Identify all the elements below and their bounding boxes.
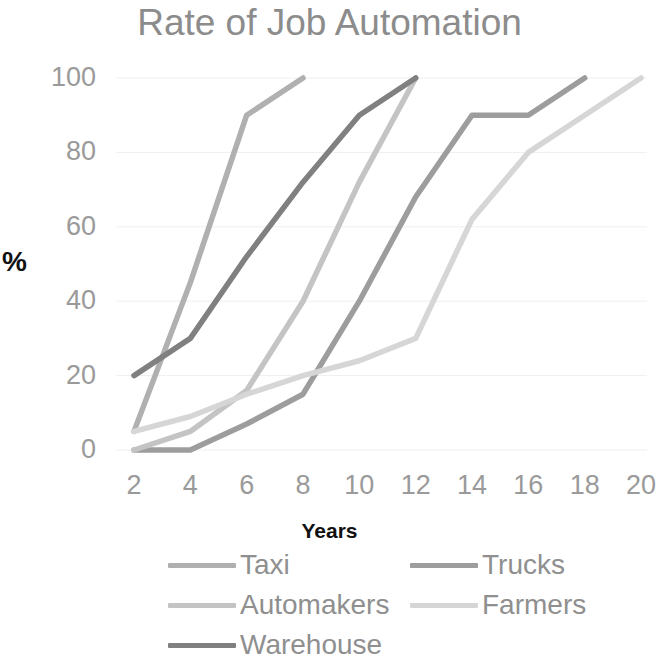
x-tick-label: 8 <box>275 472 331 499</box>
legend-item-trucks[interactable]: Trucks <box>410 548 565 582</box>
legend-item-warehouse[interactable]: Warehouse <box>168 628 382 656</box>
chart-legend: TaxiTrucksAutomakersFarmersWarehouse <box>0 548 659 656</box>
x-tick-label: 16 <box>500 472 556 499</box>
x-axis-title: Years <box>0 519 659 543</box>
x-tick-label: 18 <box>557 472 613 499</box>
series-line-trucks <box>134 78 585 450</box>
legend-label: Farmers <box>482 591 586 619</box>
chart-title: Rate of Job Automation <box>0 2 659 44</box>
x-axis: 2468101214161820 <box>0 472 659 512</box>
x-tick-label: 2 <box>106 472 162 499</box>
legend-swatch-icon <box>168 603 236 608</box>
plot-area <box>0 60 659 470</box>
x-tick-label: 10 <box>331 472 387 499</box>
series-line-taxi <box>134 78 303 431</box>
legend-swatch-icon <box>168 643 236 648</box>
legend-label: Automakers <box>240 591 389 619</box>
plot-svg <box>0 60 659 470</box>
legend-label: Taxi <box>240 551 290 579</box>
legend-label: Trucks <box>482 551 565 579</box>
x-tick-label: 20 <box>613 472 659 499</box>
legend-swatch-icon <box>168 563 236 568</box>
legend-item-farmers[interactable]: Farmers <box>410 588 586 622</box>
legend-swatch-icon <box>410 603 478 608</box>
legend-item-automakers[interactable]: Automakers <box>168 588 389 622</box>
x-tick-label: 6 <box>219 472 275 499</box>
legend-label: Warehouse <box>240 631 382 656</box>
legend-item-taxi[interactable]: Taxi <box>168 548 290 582</box>
x-tick-label: 4 <box>162 472 218 499</box>
x-tick-label: 14 <box>444 472 500 499</box>
x-tick-label: 12 <box>388 472 444 499</box>
chart-root: Rate of Job Automation 020406080100 % 24… <box>0 0 659 656</box>
series-line-automakers <box>134 78 416 450</box>
legend-swatch-icon <box>410 563 478 568</box>
